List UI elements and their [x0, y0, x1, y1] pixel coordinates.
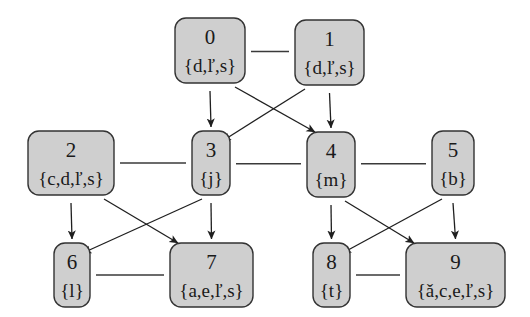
arrow-1-to-4	[330, 93, 332, 128]
node-2-id: 2	[66, 138, 77, 162]
node-0-label: {d,ľ,s}	[184, 55, 236, 76]
arrow-3-to-7	[211, 203, 212, 239]
node-4-label: {m}	[314, 169, 347, 190]
node-2-label: {c,d,ľ,s}	[38, 168, 104, 189]
node-8-label: {t}	[320, 280, 344, 301]
node-9: 9 {ǎ,c,e,ľ,s}	[406, 243, 505, 307]
node-3-id: 3	[206, 138, 217, 162]
node-8: 8 {t}	[313, 243, 350, 307]
arrow-5-to-9	[453, 203, 456, 239]
node-3-label: {j}	[199, 168, 223, 189]
node-4-id: 4	[326, 139, 337, 163]
edges-layer	[71, 52, 456, 276]
node-7-id: 7	[206, 250, 217, 274]
node-5-label: {b}	[439, 168, 467, 189]
node-6-label: {l}	[60, 280, 84, 301]
arrow-2-to-6	[71, 203, 72, 239]
node-4: 4 {m}	[307, 132, 355, 197]
arrow-1-to-3	[222, 89, 305, 141]
node-5-id: 5	[448, 138, 459, 162]
arrow-0-to-3	[210, 91, 211, 127]
node-0: 0 {d,ľ,s}	[175, 18, 245, 83]
arrow-4-to-9	[345, 201, 414, 243]
arrow-4-to-8	[331, 205, 332, 239]
arrow-2-to-7	[104, 199, 178, 243]
graph-diagram: 0 {d,ľ,s} 1 {d,ľ,s} 2 {c,d,ľ,s} 3 {j} 4 …	[0, 0, 530, 317]
node-3: 3 {j}	[192, 131, 230, 195]
nodes-layer: 0 {d,ľ,s} 1 {d,ľ,s} 2 {c,d,ľ,s} 3 {j} 4 …	[28, 18, 505, 307]
node-2: 2 {c,d,ľ,s}	[28, 131, 114, 195]
node-6: 6 {l}	[54, 243, 90, 307]
node-7: 7 {a,e,ľ,s}	[170, 243, 253, 307]
node-1: 1 {d,ľ,s}	[295, 20, 364, 85]
node-8-id: 8	[326, 250, 337, 274]
node-5: 5 {b}	[432, 131, 474, 195]
node-1-id: 1	[324, 27, 335, 51]
node-0-id: 0	[205, 25, 216, 49]
node-6-id: 6	[67, 250, 78, 274]
node-9-label: {ǎ,c,e,ľ,s}	[417, 280, 495, 301]
node-7-label: {a,e,ľ,s}	[179, 280, 243, 301]
node-1-label: {d,ľ,s}	[303, 57, 355, 78]
node-9-id: 9	[450, 250, 461, 274]
